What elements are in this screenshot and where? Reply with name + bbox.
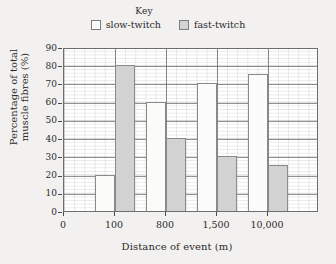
x-tick-mark-1 bbox=[114, 212, 115, 216]
x-tick-mark-0 bbox=[63, 212, 64, 216]
bar-chart: Key slow-twitch fast-twitch Percentage o… bbox=[0, 0, 336, 264]
legend-label-slow-twitch: slow-twitch bbox=[106, 19, 161, 30]
y-tick-label-70: 70 bbox=[46, 80, 57, 89]
x-tick-label-0: 0 bbox=[60, 220, 66, 230]
y-tick-mark-50 bbox=[58, 121, 62, 122]
y-tick-mark-0 bbox=[58, 212, 62, 213]
y-tick-label-60: 60 bbox=[46, 98, 57, 107]
y-tick-mark-70 bbox=[58, 84, 62, 85]
x-tick-label-10000: 10,000 bbox=[250, 220, 283, 230]
x-tick-label-100: 100 bbox=[105, 220, 123, 230]
bar-slow-twitch-10000 bbox=[248, 74, 268, 211]
bars-layer bbox=[64, 49, 317, 211]
bar-fast-twitch-800 bbox=[166, 138, 186, 211]
x-tick-mark-3 bbox=[216, 212, 217, 216]
y-tick-mark-10 bbox=[58, 194, 62, 195]
x-tick-label-800: 800 bbox=[156, 220, 174, 230]
x-axis-title: Distance of event (m) bbox=[0, 241, 336, 253]
y-tick-mark-40 bbox=[58, 139, 62, 140]
bar-slow-twitch-100 bbox=[95, 175, 115, 211]
x-tick-label-1500: 1,500 bbox=[202, 220, 229, 230]
y-tick-label-30: 30 bbox=[46, 153, 57, 162]
y-tick-mark-90 bbox=[58, 48, 62, 49]
plot-area bbox=[63, 48, 318, 212]
y-tick-mark-80 bbox=[58, 66, 62, 67]
y-tick-label-10: 10 bbox=[46, 189, 57, 198]
y-tick-label-40: 40 bbox=[46, 135, 57, 144]
y-tick-mark-60 bbox=[58, 103, 62, 104]
legend-swatch-fast-twitch bbox=[179, 20, 189, 30]
y-tick-label-80: 80 bbox=[46, 62, 57, 71]
y-tick-label-50: 50 bbox=[46, 116, 57, 125]
y-axis-ticks: 0102030405060708090 bbox=[0, 0, 57, 264]
y-tick-mark-30 bbox=[58, 157, 62, 158]
y-tick-label-0: 0 bbox=[51, 208, 57, 217]
legend-swatch-slow-twitch bbox=[91, 20, 101, 30]
y-tick-label-90: 90 bbox=[46, 44, 57, 53]
legend-title: Key bbox=[135, 6, 153, 17]
legend-items: slow-twitch fast-twitch bbox=[91, 19, 246, 30]
x-tick-mark-4 bbox=[267, 212, 268, 216]
bar-slow-twitch-1500 bbox=[197, 83, 217, 211]
bar-slow-twitch-800 bbox=[146, 102, 166, 211]
bar-fast-twitch-100 bbox=[115, 65, 135, 211]
y-tick-label-20: 20 bbox=[46, 171, 57, 180]
legend-item-fast-twitch: fast-twitch bbox=[179, 19, 245, 30]
bar-fast-twitch-1500 bbox=[217, 156, 237, 211]
y-tick-mark-20 bbox=[58, 176, 62, 177]
bar-fast-twitch-10000 bbox=[268, 165, 288, 211]
x-tick-mark-2 bbox=[165, 212, 166, 216]
legend-label-fast-twitch: fast-twitch bbox=[194, 19, 245, 30]
legend-item-slow-twitch: slow-twitch bbox=[91, 19, 161, 30]
